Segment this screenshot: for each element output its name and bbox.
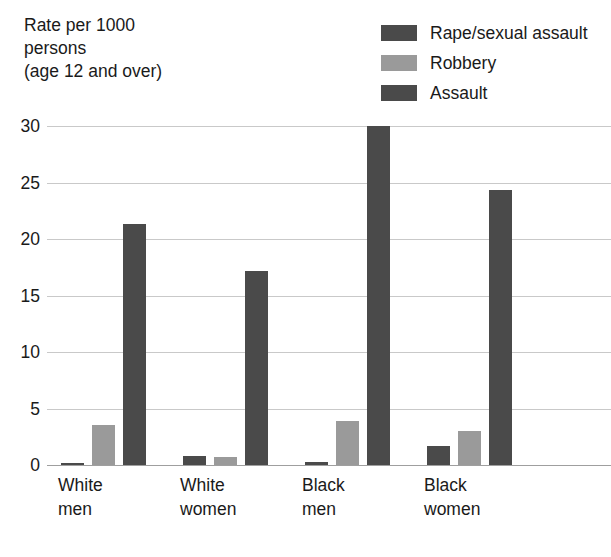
legend-label-assault: Assault [430, 83, 487, 104]
bar [61, 463, 84, 465]
legend-item-rape-sexual-assault: Rape/sexual assault [381, 18, 588, 48]
legend-swatch-icon-rape-sexual-assault [381, 25, 417, 41]
legend-swatch-icon-robbery [381, 55, 417, 71]
bar [458, 431, 481, 465]
bar [92, 425, 115, 465]
bar [183, 456, 206, 465]
y-tick-label-10: 10 [4, 342, 40, 363]
bar [123, 224, 146, 465]
x-category-label: White men [58, 473, 103, 521]
bar [367, 126, 390, 465]
legend-label-robbery: Robbery [430, 53, 496, 74]
x-category-label: Black women [424, 473, 480, 521]
y-tick-label-0: 0 [4, 455, 40, 476]
legend-label-rape-sexual-assault: Rape/sexual assault [430, 23, 588, 44]
bar [305, 462, 328, 465]
x-category-label: White women [180, 473, 236, 521]
y-tick-label-20: 20 [4, 229, 40, 250]
gridline-30 [47, 126, 611, 127]
y-tick-label-25: 25 [4, 172, 40, 193]
legend-swatch-icon-assault [381, 85, 417, 101]
plot-area [47, 126, 611, 465]
y-tick-label-15: 15 [4, 285, 40, 306]
legend-item-assault: Assault [381, 78, 588, 108]
y-axis-tick-labels: 051015202530 [0, 126, 40, 465]
legend-item-robbery: Robbery [381, 48, 588, 78]
y-tick-label-5: 5 [4, 398, 40, 419]
gridline-0 [47, 465, 611, 466]
y-tick-label-30: 30 [4, 116, 40, 137]
x-category-label: Black men [302, 473, 345, 521]
bar [336, 421, 359, 465]
bar [427, 446, 450, 465]
bar [214, 457, 237, 465]
x-axis-category-labels: White menWhite womenBlack menBlack women [47, 473, 611, 533]
bar [489, 190, 512, 465]
bar [245, 271, 268, 465]
y-axis-caption: Rate per 1000 persons (age 12 and over) [24, 14, 162, 83]
chart-legend: Rape/sexual assault Robbery Assault [381, 18, 588, 108]
bar-chart: Rate per 1000 persons (age 12 and over) … [0, 0, 611, 557]
gridline-25 [47, 183, 611, 184]
